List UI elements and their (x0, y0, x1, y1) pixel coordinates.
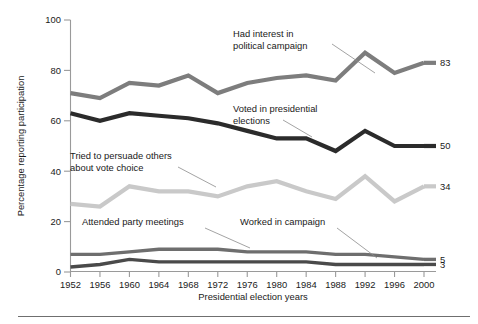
y-axis-title: Percentage reporting participation (15, 76, 26, 217)
x-tick-label: 1952 (60, 279, 81, 290)
x-axis-title: Presidential election years (198, 291, 308, 302)
y-tick-label: 80 (51, 65, 61, 76)
x-tick-label: 1976 (237, 279, 258, 290)
x-tick-label: 1968 (178, 279, 199, 290)
series-end-label-2: 50 (440, 140, 450, 151)
chart-figure: 020406080100 195219561960196419681972197… (0, 0, 478, 324)
x-tick-label: 1988 (325, 279, 346, 290)
series-end-label-1: 83 (440, 57, 450, 68)
x-tick-label: 1964 (148, 279, 169, 290)
x-tick-label: 1972 (207, 279, 228, 290)
y-tick-label: 100 (45, 14, 61, 25)
y-tick-label: 60 (51, 115, 61, 126)
x-tick-label: 1980 (266, 279, 287, 290)
x-tick-label: 1960 (119, 279, 140, 290)
annotation-worked: Worked in campaign (240, 216, 325, 227)
series-end-label-3: 34 (440, 181, 450, 192)
participation-line-chart: 020406080100 195219561960196419681972197… (0, 0, 478, 324)
y-tick-label: 0 (56, 266, 61, 277)
y-tick-label: 20 (51, 216, 61, 227)
x-tick-label: 1992 (355, 279, 376, 290)
x-tick-label: 1956 (90, 279, 111, 290)
x-tick-label: 2000 (414, 279, 435, 290)
x-tick-label: 1996 (384, 279, 405, 290)
x-tick-label: 1984 (296, 279, 317, 290)
annotation-meetings: Attended party meetings (82, 216, 184, 227)
y-tick-label: 40 (51, 166, 61, 177)
series-end-label-5: 3 (440, 259, 445, 270)
